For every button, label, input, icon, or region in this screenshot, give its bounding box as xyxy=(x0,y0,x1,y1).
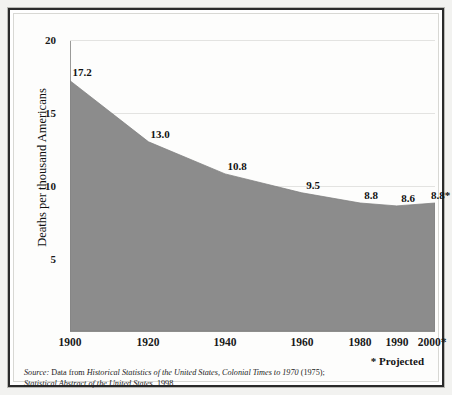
source-note: Source: Data from Historical Statistics … xyxy=(24,368,424,389)
source-line2-title: Statistical Abstract of the United State… xyxy=(24,379,153,388)
source-label: Source: xyxy=(24,368,49,377)
y-tick-20: 20 xyxy=(10,35,56,46)
data-label-1920: 13.0 xyxy=(150,128,169,140)
chart-page: Deaths per thousand Americans 20 15 10 5… xyxy=(0,0,452,395)
data-label-1980: 8.8 xyxy=(364,189,378,201)
source-line1-plain-a: Data from xyxy=(49,368,87,377)
x-tick-1920: 1920 xyxy=(137,336,160,348)
y-tick-15: 15 xyxy=(10,108,56,119)
y-tick-5: 5 xyxy=(10,254,56,265)
x-tick-1990: 1990 xyxy=(386,336,409,348)
source-line1-title: Historical Statistics of the United Stat… xyxy=(87,368,299,377)
chart-frame: Deaths per thousand Americans 20 15 10 5… xyxy=(8,8,444,387)
data-label-1940: 10.8 xyxy=(227,160,246,172)
y-axis-label: Deaths per thousand Americans xyxy=(35,58,50,278)
x-tick-1940: 1940 xyxy=(214,336,237,348)
plot-area xyxy=(70,40,435,331)
projected-footnote: * Projected xyxy=(371,355,424,367)
data-label-2000: 8.8* xyxy=(431,189,450,201)
y-tick-10: 10 xyxy=(10,181,56,192)
x-tick-1980: 1980 xyxy=(349,336,372,348)
death-rate-area-series xyxy=(70,40,435,331)
data-label-1960: 9.5 xyxy=(306,179,320,191)
source-line2-plain: , 1998. xyxy=(153,379,176,388)
x-tick-2000: 2000* xyxy=(418,336,447,348)
x-tick-1900: 1900 xyxy=(59,336,82,348)
area-polygon xyxy=(70,81,435,331)
data-label-1900: 17.2 xyxy=(72,66,91,78)
x-tick-1960: 1960 xyxy=(291,336,314,348)
source-line1-plain-b: (1975); xyxy=(299,368,325,377)
data-label-1990: 8.6 xyxy=(401,192,415,204)
x-axis-line xyxy=(70,331,435,332)
